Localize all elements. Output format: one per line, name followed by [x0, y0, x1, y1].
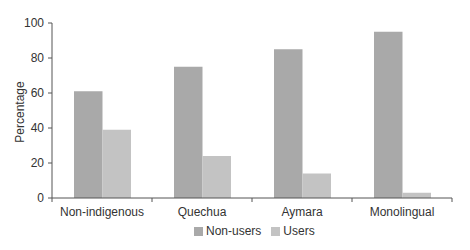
- bar-users-quechua: [203, 156, 232, 198]
- x-category-label: Quechua: [178, 205, 227, 219]
- y-tick-label: 100: [24, 16, 44, 30]
- y-tick-label: 20: [31, 156, 45, 170]
- bar-non-users-monolingual: [374, 32, 403, 198]
- bar-users-non-indigenous: [103, 130, 132, 198]
- legend-swatch-users: [271, 227, 280, 236]
- y-tick-label: 60: [31, 86, 45, 100]
- legend-label-users: Users: [283, 224, 314, 238]
- x-category-label: Non-indigenous: [60, 205, 144, 219]
- x-axis: Non-indigenousQuechuaAymaraMonolingual: [52, 198, 452, 219]
- legend-item-non-users: Non-users: [194, 224, 261, 238]
- y-tick-label: 40: [31, 121, 45, 135]
- y-tick-label: 0: [37, 191, 44, 205]
- y-axis: 020406080100: [24, 16, 52, 205]
- legend: Non-users Users: [194, 224, 319, 238]
- x-category-label: Monolingual: [370, 205, 435, 219]
- y-tick-label: 80: [31, 51, 45, 65]
- bar-users-monolingual: [403, 193, 432, 198]
- bars: [74, 32, 431, 198]
- legend-swatch-non-users: [194, 227, 203, 236]
- bar-users-aymara: [303, 174, 332, 199]
- y-axis-label: Percentage: [13, 81, 27, 143]
- bar-non-users-aymara: [274, 49, 303, 198]
- bar-chart: 020406080100 Non-indigenousQuechuaAymara…: [0, 0, 470, 250]
- bar-non-users-quechua: [174, 67, 203, 198]
- bar-non-users-non-indigenous: [74, 91, 103, 198]
- x-category-label: Aymara: [281, 205, 322, 219]
- legend-label-non-users: Non-users: [206, 224, 261, 238]
- legend-item-users: Users: [271, 224, 314, 238]
